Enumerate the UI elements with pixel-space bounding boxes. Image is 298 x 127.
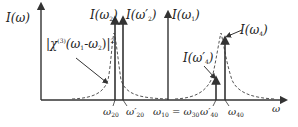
x-axis-label: ω [272, 104, 280, 114]
tick-omega20-prime: ω′20 [126, 107, 144, 118]
tick-omega40-prime: ω′40 [200, 107, 218, 118]
label-I-omega2: I(ω2) [90, 9, 118, 22]
label-I-omega2-prime: I(ω′2) [126, 9, 156, 22]
label-I-omega1: I(ω1) [172, 9, 200, 22]
tick-omega10-eq-omega30: ω10 = ω30 [153, 107, 199, 118]
tick-leader [113, 100, 115, 106]
label-I-omega4-prime: I(ω′4) [183, 52, 213, 65]
tick-leader [213, 100, 216, 106]
tick-omega20: ω20 [103, 107, 119, 118]
label-I-omega4: I(ω4) [240, 24, 268, 37]
y-axis-label: I(ω) [6, 12, 30, 24]
susceptibility-label: |χ(3)(ω1-ω2)|2 [46, 38, 114, 51]
omega4p-pointer [204, 66, 214, 77]
tick-omega40: ω40 [228, 107, 244, 118]
chi-pointer [76, 58, 106, 82]
